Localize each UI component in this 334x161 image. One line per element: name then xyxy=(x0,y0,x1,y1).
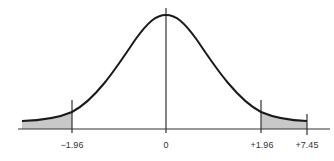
tick-label-pos-1-96: +1.96 xyxy=(251,140,274,150)
normal-curve xyxy=(22,15,307,121)
tick-label-zero: 0 xyxy=(163,140,168,150)
tick-label-pos-7-45: +7.45 xyxy=(296,140,319,150)
normal-distribution-chart xyxy=(0,0,334,161)
tick-label-neg-1-96: −1.96 xyxy=(61,140,84,150)
